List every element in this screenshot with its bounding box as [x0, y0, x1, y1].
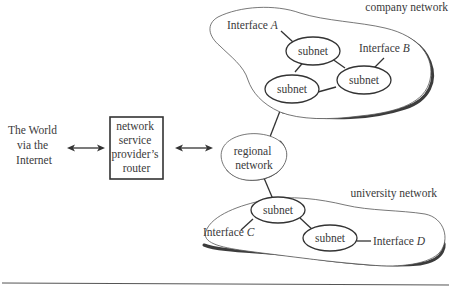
- company-subnet-right: subnet: [337, 66, 391, 94]
- svg-text:subnet: subnet: [315, 232, 346, 244]
- interface-c-label: Interface C: [203, 226, 255, 238]
- world-router-double-arrow: [67, 145, 105, 152]
- svg-text:subnet: subnet: [298, 45, 329, 57]
- router-box: network service provider’s router: [110, 117, 163, 179]
- company-subnet-top: subnet: [286, 37, 340, 65]
- svg-text:subnet: subnet: [277, 83, 308, 95]
- svg-text:subnet: subnet: [263, 204, 294, 216]
- interface-d-label: Interface D: [373, 235, 426, 247]
- svg-text:subnet: subnet: [349, 74, 380, 86]
- network-diagram: regional network subnet subnet subnet co…: [0, 0, 451, 290]
- university-subnet-right: subnet: [303, 225, 357, 251]
- router-regional-double-arrow: [175, 145, 213, 152]
- interface-a-label: Interface A: [227, 19, 279, 31]
- university-subnet-left: subnet: [251, 197, 305, 223]
- university-network-label: university network: [350, 187, 437, 200]
- bottom-rule: [2, 283, 449, 285]
- world-label: The World via the Internet: [8, 124, 60, 166]
- interface-b-label: Interface B: [359, 42, 410, 54]
- company-network-label: company network: [365, 1, 448, 14]
- company-subnet-left: subnet: [265, 75, 319, 103]
